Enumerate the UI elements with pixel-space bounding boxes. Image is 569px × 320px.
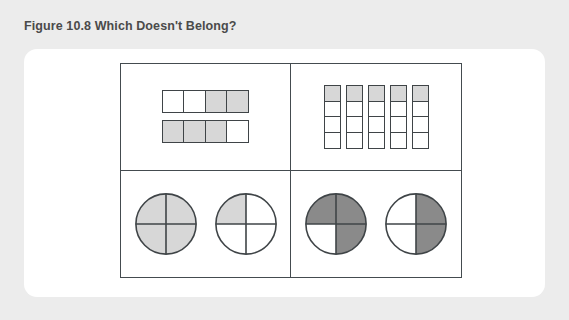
vertical-strip xyxy=(324,85,341,149)
bar-cell-empty xyxy=(162,90,185,113)
fraction-circle xyxy=(135,193,197,255)
strip-cell-empty xyxy=(324,101,341,118)
strip-cell-shaded xyxy=(390,85,407,102)
vertical-strips-group xyxy=(324,85,429,149)
bar-cell-shaded xyxy=(183,120,206,143)
strip-cell-empty xyxy=(390,101,407,118)
strip-cell-shaded xyxy=(368,85,385,102)
strip-cell-empty xyxy=(368,132,385,149)
bar-cell-empty xyxy=(226,120,249,143)
bar-row xyxy=(162,120,250,143)
strip-cell-empty xyxy=(324,132,341,149)
quadrant-bottom-right xyxy=(291,171,461,278)
quadrant-grid xyxy=(120,63,462,278)
quadrant-bottom-left xyxy=(121,171,291,278)
strip-cell-empty xyxy=(346,116,363,133)
vertical-strip xyxy=(390,85,407,149)
strip-cell-shaded xyxy=(324,85,341,102)
strip-cell-empty xyxy=(412,101,429,118)
strip-cell-empty xyxy=(390,132,407,149)
bar-cell-empty xyxy=(183,90,206,113)
vertical-strip xyxy=(412,85,429,149)
strip-cell-empty xyxy=(368,101,385,118)
light-circles-group xyxy=(135,193,277,255)
vertical-strip xyxy=(346,85,363,149)
dark-circles-group xyxy=(305,193,447,255)
quadrant-top-left xyxy=(121,64,291,171)
bar-cell-shaded xyxy=(226,90,249,113)
strip-cell-empty xyxy=(390,116,407,133)
strip-cell-empty xyxy=(412,132,429,149)
strip-cell-empty xyxy=(368,116,385,133)
bar-cell-shaded xyxy=(205,120,228,143)
bar-row xyxy=(162,90,250,113)
strip-cell-shaded xyxy=(346,85,363,102)
page-title: Figure 10.8 Which Doesn't Belong? xyxy=(24,19,237,33)
fraction-circle xyxy=(305,193,367,255)
horizontal-bars-group xyxy=(162,90,250,143)
bar-cell-shaded xyxy=(162,120,185,143)
figure-card xyxy=(24,49,545,297)
strip-cell-empty xyxy=(346,132,363,149)
strip-cell-empty xyxy=(324,116,341,133)
quadrant-top-right xyxy=(291,64,461,171)
strip-cell-empty xyxy=(412,116,429,133)
strip-cell-empty xyxy=(346,101,363,118)
strip-cell-shaded xyxy=(412,85,429,102)
vertical-strip xyxy=(368,85,385,149)
bar-cell-shaded xyxy=(205,90,228,113)
fraction-circle xyxy=(385,193,447,255)
fraction-circle xyxy=(215,193,277,255)
